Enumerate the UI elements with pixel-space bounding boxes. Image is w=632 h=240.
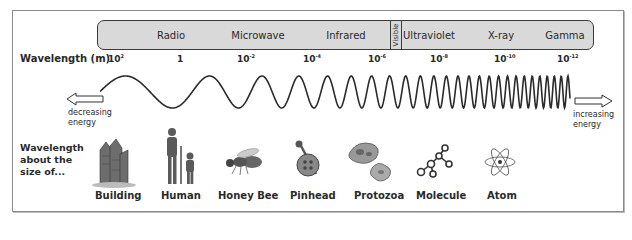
- object-label-pinhead: Pinhead: [290, 190, 336, 201]
- band-x-ray: X-ray: [476, 21, 526, 49]
- band-label: Gamma: [545, 30, 585, 41]
- band-label: Infrared: [326, 30, 365, 41]
- molecule-icon: [407, 142, 467, 182]
- human-icon: [148, 126, 208, 188]
- band-label: Ultraviolet: [403, 30, 455, 41]
- band-radio: Radio: [138, 21, 204, 49]
- band-label: X-ray: [488, 30, 514, 41]
- object-label-protozoa: Protozoa: [354, 190, 404, 201]
- object-label-molecule: Molecule: [416, 190, 466, 201]
- object-label-building: Building: [95, 190, 141, 201]
- building-icon: [84, 136, 144, 188]
- object-label-atom: Atom: [487, 190, 517, 201]
- spectrum-band-bar: Radio Microwave Infrared Visible Ultravi…: [97, 20, 594, 50]
- band-gamma: Gamma: [540, 21, 590, 49]
- band-visible: Visible: [390, 21, 402, 49]
- band-ultraviolet: Ultraviolet: [404, 21, 454, 49]
- band-label: Microwave: [231, 30, 284, 41]
- band-label: Visible: [392, 24, 400, 47]
- size-comparison-label: Wavelength about the size of...: [20, 142, 84, 178]
- band-infrared: Infrared: [313, 21, 379, 49]
- object-label-human: Human: [161, 190, 201, 201]
- increasing-energy-label: increasing energy: [573, 110, 614, 130]
- wave-icon: [100, 62, 580, 122]
- wavelength-axis-label: Wavelength (m): [20, 53, 110, 64]
- honey-bee-icon: [214, 144, 274, 178]
- band-label: Radio: [157, 30, 185, 41]
- protozoa-icon: [342, 138, 402, 184]
- object-label-honey-bee: Honey Bee: [218, 190, 278, 201]
- increasing-energy-arrow-icon: [574, 94, 614, 108]
- atom-icon: [470, 144, 530, 180]
- pinhead-icon: [278, 140, 338, 182]
- band-microwave: Microwave: [213, 21, 303, 49]
